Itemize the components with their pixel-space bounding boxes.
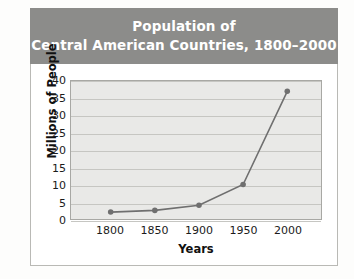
y-tick-label: 25: [36, 126, 66, 139]
x-axis-title: Years: [70, 242, 322, 256]
x-tick-label: 1950: [220, 224, 268, 237]
data-point-marker: [108, 209, 114, 215]
y-tick-label: 0: [36, 214, 66, 227]
data-point-marker: [284, 89, 290, 95]
series-line-chart: [71, 81, 321, 219]
chart-title-banner: Population of Central American Countries…: [30, 8, 338, 64]
chart-title-line-2: Central American Countries, 1800–2000: [31, 36, 336, 55]
y-tick-label: 10: [36, 179, 66, 192]
x-tick-label: 1850: [131, 224, 179, 237]
x-tick-label: 1800: [86, 224, 134, 237]
y-tick-label: 35: [36, 91, 66, 104]
chart-area: Millions of People 0510152025303540 1800…: [30, 64, 338, 266]
y-tick-label: 5: [36, 196, 66, 209]
y-axis-tick-labels: 0510152025303540: [34, 80, 66, 220]
figure-root: Population of Central American Countries…: [0, 0, 354, 279]
gridline: [71, 221, 321, 222]
x-tick-label: 2000: [264, 224, 312, 237]
x-tick-label: 1900: [175, 224, 223, 237]
data-point-marker: [196, 202, 202, 208]
y-tick-label: 40: [36, 74, 66, 87]
y-tick-label: 15: [36, 161, 66, 174]
chart-title-line-1: Population of: [132, 17, 235, 36]
plot-area: [70, 80, 322, 220]
data-point-marker: [152, 208, 158, 214]
series-polyline: [111, 91, 288, 212]
data-point-marker: [240, 182, 246, 188]
y-tick-label: 20: [36, 144, 66, 157]
plot-inner: [71, 81, 321, 219]
y-tick-label: 30: [36, 109, 66, 122]
